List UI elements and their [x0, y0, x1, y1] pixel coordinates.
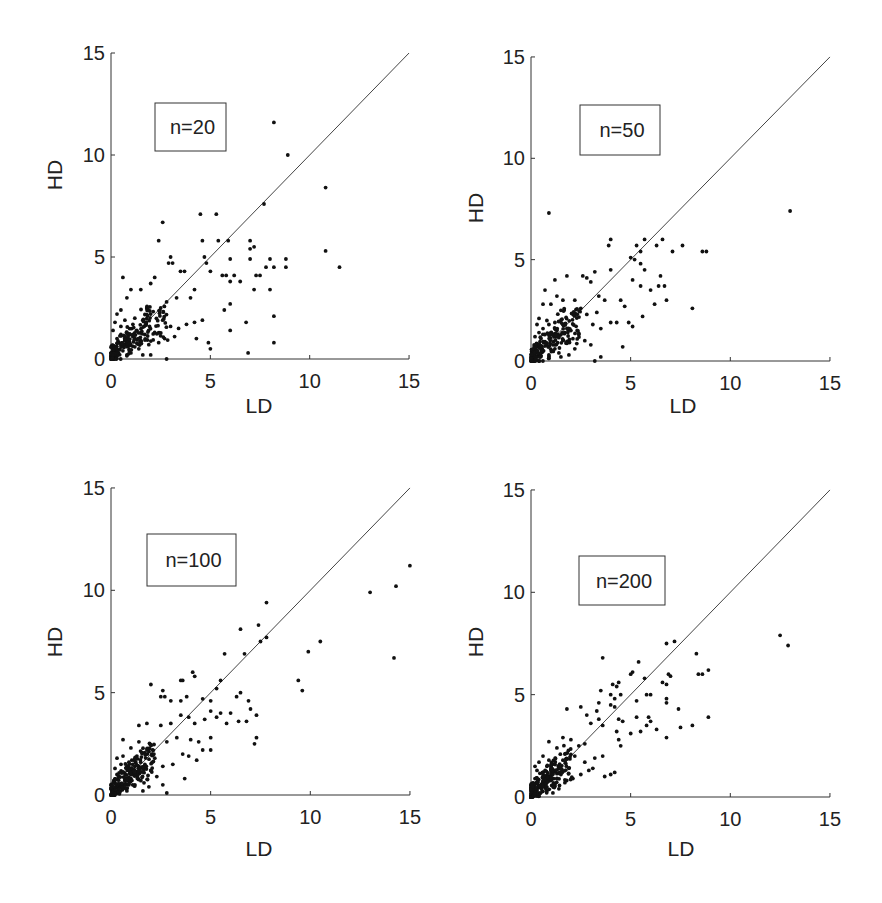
data-point — [136, 775, 140, 779]
data-point — [535, 349, 539, 353]
data-point — [133, 316, 137, 320]
data-point — [534, 357, 538, 361]
data-point — [564, 322, 568, 326]
data-point — [119, 762, 123, 766]
data-point — [169, 699, 173, 703]
data-point — [127, 352, 131, 356]
x-tick-label: 0 — [525, 808, 536, 830]
data-point — [575, 307, 579, 311]
annotation-label: n=100 — [165, 549, 221, 571]
data-point — [132, 326, 136, 330]
data-point — [589, 280, 593, 284]
data-point — [565, 341, 569, 345]
data-point — [155, 316, 159, 320]
data-point — [531, 785, 535, 789]
data-point — [553, 278, 557, 282]
data-point — [163, 321, 167, 325]
data-point — [146, 330, 150, 334]
data-point — [665, 697, 669, 701]
data-point — [621, 719, 625, 723]
data-point — [535, 323, 539, 327]
scatter-points — [529, 209, 792, 363]
data-point — [553, 321, 557, 325]
data-point — [253, 742, 257, 746]
y-tick-label: 0 — [514, 786, 525, 808]
x-tick-label: 0 — [105, 806, 116, 828]
data-point — [228, 302, 232, 306]
data-point — [247, 699, 251, 703]
data-point — [246, 351, 250, 355]
data-point — [141, 325, 145, 329]
data-point — [613, 705, 617, 709]
y-tick-label: 5 — [94, 246, 105, 268]
y-axis-label: HD — [43, 160, 66, 190]
data-point — [125, 786, 129, 790]
data-point — [115, 312, 119, 316]
data-point — [548, 342, 552, 346]
data-point — [159, 331, 163, 335]
data-point — [209, 748, 213, 752]
data-point — [647, 715, 651, 719]
data-point — [238, 280, 242, 284]
data-point — [158, 314, 162, 318]
data-point — [537, 331, 541, 335]
data-point — [179, 699, 183, 703]
data-point — [617, 681, 621, 685]
data-point — [667, 672, 671, 676]
data-point — [156, 324, 160, 328]
data-point — [701, 250, 705, 254]
data-point — [631, 278, 635, 282]
x-tick-label: 5 — [625, 372, 636, 394]
data-point — [163, 695, 167, 699]
data-point — [201, 318, 205, 322]
data-point — [125, 296, 129, 300]
data-point — [639, 250, 643, 254]
data-point — [161, 220, 165, 224]
data-point — [249, 707, 253, 711]
y-tick-label: 15 — [503, 479, 525, 501]
data-point — [225, 722, 229, 726]
data-point — [147, 785, 151, 789]
data-point — [147, 319, 151, 323]
data-point — [554, 768, 558, 772]
data-point — [179, 713, 183, 717]
data-point — [615, 321, 619, 325]
data-point — [567, 353, 571, 357]
x-tick-label: 0 — [105, 370, 116, 392]
data-point — [547, 740, 551, 744]
data-point — [169, 255, 173, 259]
data-point — [136, 337, 140, 341]
data-point — [109, 786, 113, 790]
data-point — [152, 760, 156, 764]
data-point — [195, 758, 199, 762]
data-point — [185, 322, 189, 326]
data-point — [147, 757, 151, 761]
data-point — [300, 689, 304, 693]
data-point — [248, 239, 252, 243]
data-point — [129, 746, 133, 750]
data-point — [643, 268, 647, 272]
data-point — [155, 332, 159, 336]
data-point — [252, 245, 256, 249]
x-tick-label: 15 — [398, 370, 420, 392]
data-point — [551, 772, 555, 776]
data-point — [583, 742, 587, 746]
data-point — [619, 298, 623, 302]
data-point — [161, 783, 165, 787]
data-point — [142, 781, 146, 785]
data-point — [338, 265, 342, 269]
data-point — [169, 722, 173, 726]
data-point — [166, 338, 170, 342]
data-point — [185, 695, 189, 699]
panel-svg: 051015051015LDHDn=100 — [0, 440, 441, 903]
data-point — [697, 672, 701, 676]
data-point — [193, 320, 197, 324]
data-point — [619, 744, 623, 748]
data-point — [142, 320, 146, 324]
data-point — [565, 764, 569, 768]
data-point — [199, 212, 203, 216]
data-point — [567, 772, 571, 776]
data-point — [136, 769, 140, 773]
data-point — [149, 769, 153, 773]
data-point — [128, 333, 132, 337]
